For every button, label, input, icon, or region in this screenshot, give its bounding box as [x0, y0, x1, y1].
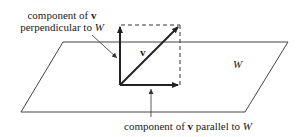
perp-leader-arrow: [92, 35, 117, 58]
perp-label-text: component of: [27, 9, 91, 21]
par-label-space: W: [243, 120, 252, 132]
par-label-text2: parallel to: [193, 120, 243, 132]
vector-v-arrow: [120, 27, 178, 85]
vector-v-label: v: [140, 46, 146, 58]
par-label-text: component of: [124, 120, 188, 132]
plane-w: [21, 42, 288, 112]
perpendicular-component-label: component of v perpendicular to W: [14, 9, 110, 33]
perp-label-space: W: [95, 21, 104, 33]
parallel-component-label: component of v parallel to W: [124, 120, 252, 132]
plane-w-label: W: [233, 58, 242, 70]
perp-label-text2: perpendicular to: [20, 21, 95, 33]
perp-label-vector: v: [91, 9, 97, 21]
